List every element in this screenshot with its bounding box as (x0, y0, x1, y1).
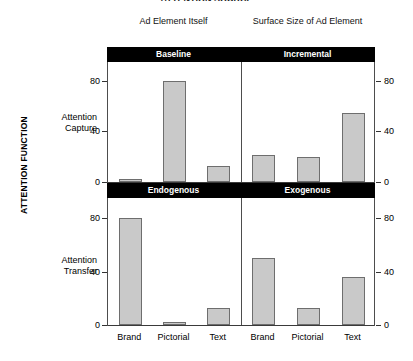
y-axis-tick-label: 0 (78, 321, 100, 330)
x-axis-category-label: Text (196, 332, 240, 342)
bar (119, 218, 142, 325)
panel-divider-bottom (241, 198, 242, 326)
y-axis-tick-label: 40 (78, 127, 100, 136)
y-axis-tick (102, 81, 107, 82)
y-axis-tick-label: 40 (384, 268, 406, 277)
y-axis-tick-label: 80 (384, 77, 406, 86)
bar (342, 113, 365, 182)
y-axis-tick (102, 218, 107, 219)
y-axis-tick-label: 80 (78, 77, 100, 86)
panel-divider-top (241, 62, 242, 183)
band-label-baseline: Baseline (107, 47, 240, 62)
x-axis-category-label: Pictorial (285, 332, 330, 342)
y-axis-tick (102, 325, 107, 326)
band-label-incremental: Incremental (240, 47, 375, 62)
bar (163, 81, 186, 182)
bar (163, 322, 186, 325)
y-axis-tick-label: 40 (384, 127, 406, 136)
y-axis-tick-label: 80 (384, 214, 406, 223)
bar (252, 258, 275, 325)
y-axis-tick (376, 218, 381, 219)
y-axis-tick-label: 80 (78, 214, 100, 223)
column-header-right: Surface Size of Ad Element (240, 16, 375, 27)
panel-attention-capture (107, 62, 375, 183)
y-axis-tick (376, 131, 381, 132)
band-mid: Endogenous Exogenous (107, 183, 375, 198)
bar (119, 179, 142, 182)
band-label-endogenous: Endogenous (107, 183, 240, 198)
row-label-line1: Attention (27, 112, 97, 123)
y-axis-tick (376, 182, 381, 183)
x-axis-category-label: Pictorial (151, 332, 195, 342)
panel-baseline-bottom (108, 325, 374, 326)
bar (297, 157, 320, 182)
bar (207, 166, 230, 182)
band-top: Baseline Incremental (107, 47, 375, 62)
y-axis-tick (102, 131, 107, 132)
y-axis-tick-label: 40 (78, 268, 100, 277)
y-axis-tick (376, 325, 381, 326)
x-axis-category-label: Brand (240, 332, 285, 342)
figure-root: ATTENTION SOURCE ATTENTION FUNCTION Ad E… (0, 0, 413, 361)
y-axis-tick-label: 0 (384, 321, 406, 330)
bar (252, 155, 275, 182)
y-axis-tick (102, 182, 107, 183)
y-axis-tick (102, 272, 107, 273)
panel-attention-transfer (107, 198, 375, 326)
column-header-left: Ad Element Itself (107, 16, 240, 27)
x-axis-category-label: Brand (107, 332, 151, 342)
y-axis-tick (376, 272, 381, 273)
bar (207, 308, 230, 325)
y-axis-tick-label: 0 (78, 178, 100, 187)
bar (342, 277, 365, 325)
figure-title-cutoff: ATTENTION SOURCE (0, 0, 413, 1)
y-axis-tick (376, 81, 381, 82)
y-axis-tick-label: 0 (384, 178, 406, 187)
x-axis-category-label: Text (330, 332, 375, 342)
row-label-line1: Attention (27, 255, 97, 266)
band-label-exogenous: Exogenous (240, 183, 375, 198)
bar (297, 308, 320, 325)
